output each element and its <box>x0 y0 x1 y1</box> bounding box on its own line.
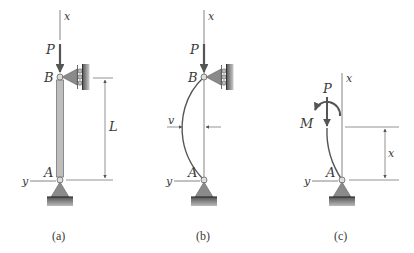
pin-support-triangle <box>333 182 351 197</box>
ground <box>47 197 73 206</box>
euler-column-diagram: x P B L A y (a) x <box>0 0 414 253</box>
roller-support-triangle <box>206 69 221 85</box>
panel-a: x P B L A y (a) <box>21 10 118 243</box>
load-label: P <box>322 81 332 96</box>
point-b-label: B <box>187 70 198 85</box>
ground <box>329 197 355 206</box>
pin-support-triangle <box>51 182 69 197</box>
point-a-label: A <box>187 165 197 180</box>
point-a-label: A <box>43 165 53 180</box>
caption-a: (a) <box>52 229 65 243</box>
ground <box>191 197 217 206</box>
load-label: P <box>189 42 199 57</box>
wall <box>83 64 90 90</box>
load-label: P <box>45 42 55 57</box>
x-axis-label: x <box>346 72 353 85</box>
roller-support-triangle <box>62 69 77 85</box>
caption-b: (b) <box>196 229 210 243</box>
y-axis-label: y <box>21 175 29 188</box>
column <box>57 80 64 177</box>
distance-label: x <box>388 147 395 160</box>
pin-support-triangle <box>195 182 213 197</box>
point-a-label: A <box>325 165 335 180</box>
moment-label: M <box>299 116 314 131</box>
y-axis-label: y <box>165 175 173 188</box>
wall <box>227 64 234 90</box>
y-axis-label: y <box>303 175 311 188</box>
panel-b: x P B v A y (b) <box>165 10 234 243</box>
x-axis-label: x <box>208 10 215 23</box>
caption-c: (c) <box>334 229 347 243</box>
deflection-label: v <box>168 114 175 127</box>
length-label: L <box>108 119 118 134</box>
point-b-label: B <box>43 70 54 85</box>
x-axis-label: x <box>64 10 71 23</box>
panel-c: x P M x A y (c) <box>299 72 399 243</box>
